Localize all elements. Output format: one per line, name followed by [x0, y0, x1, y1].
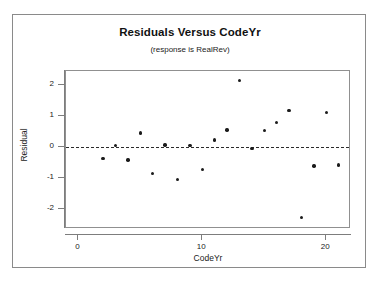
- x-axis-tick-label: 0: [62, 242, 92, 251]
- y-axis-tick-label: -2: [14, 204, 54, 212]
- data-point: [176, 178, 179, 181]
- data-point: [101, 157, 104, 160]
- x-axis-tick: [325, 234, 326, 240]
- y-axis-tick: [58, 146, 64, 147]
- data-point: [312, 164, 315, 167]
- data-point: [151, 172, 154, 175]
- data-point: [201, 168, 204, 171]
- data-point: [337, 163, 340, 166]
- plot-area: [66, 71, 349, 227]
- x-axis-tick-label: 10: [186, 242, 216, 251]
- data-point: [225, 128, 228, 131]
- y-axis-tick: [58, 177, 64, 178]
- data-point: [275, 121, 278, 124]
- data-point: [287, 109, 290, 112]
- data-point: [300, 216, 303, 219]
- chart-subtitle: (response is RealRev): [0, 45, 380, 54]
- x-axis-tick: [201, 234, 202, 240]
- data-point: [139, 131, 142, 134]
- y-axis-tick-label: 2: [14, 80, 54, 88]
- y-axis-tick: [58, 208, 64, 209]
- plot-panel: [65, 70, 350, 228]
- data-point: [250, 147, 253, 150]
- data-point: [188, 144, 191, 147]
- data-point: [213, 138, 216, 141]
- data-point: [126, 158, 129, 161]
- y-axis-tick-label: 0: [14, 142, 54, 150]
- data-point: [263, 129, 266, 132]
- y-axis-tick-label: -1: [14, 173, 54, 181]
- residual-plot-figure: Residuals Versus CodeYr (response is Rea…: [0, 0, 380, 283]
- x-axis-tick: [77, 234, 78, 240]
- y-axis-tick: [58, 115, 64, 116]
- data-point: [163, 143, 166, 146]
- chart-title: Residuals Versus CodeYr: [0, 26, 380, 38]
- y-axis-tick-label: 1: [14, 111, 54, 119]
- x-axis-label: CodeYr: [65, 253, 351, 263]
- data-point: [325, 111, 328, 114]
- x-axis-line: [65, 234, 351, 235]
- data-point: [238, 79, 241, 82]
- y-axis-tick: [58, 84, 64, 85]
- x-axis-tick-label: 20: [310, 242, 340, 251]
- zero-reference-line: [66, 147, 349, 148]
